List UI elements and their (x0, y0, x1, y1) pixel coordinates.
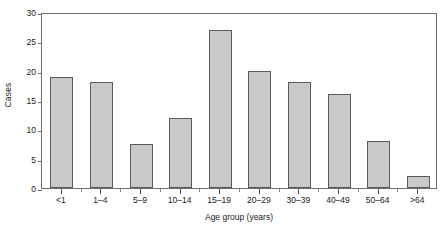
bar-chart-figure: Cases 051015202530 <11–45–910–1415–1920–… (0, 0, 445, 232)
y-tick-label: 25 (27, 38, 36, 47)
x-tick-label: >64 (410, 196, 424, 205)
bar (367, 141, 390, 188)
y-tick-label: 10 (27, 126, 36, 135)
x-tick-minor-mark (160, 189, 161, 192)
x-tick-mark (219, 189, 220, 194)
y-tick-label: 30 (27, 9, 36, 18)
y-axis-title-text: Cases (3, 82, 13, 107)
x-axis-title-text: Age group (years) (205, 212, 273, 222)
x-tick-minor-mark (397, 189, 398, 192)
x-tick-mark (100, 189, 101, 194)
bar (169, 118, 192, 188)
x-tick-label: 10–14 (168, 196, 192, 205)
x-tick-label: 1–4 (93, 196, 107, 205)
bar (50, 77, 73, 188)
x-tick-label: 50–64 (366, 196, 390, 205)
x-tick-label: 15–19 (207, 196, 231, 205)
y-tick-mark (38, 131, 42, 132)
bar (90, 82, 113, 188)
y-tick-label: 5 (31, 155, 36, 164)
y-tick-label: 20 (27, 67, 36, 76)
bars-layer (42, 14, 436, 188)
x-tick-minor-mark (279, 189, 280, 192)
x-tick-label: 40–49 (326, 196, 350, 205)
x-tick-label: 5–9 (133, 196, 147, 205)
y-axis-title: Cases (0, 0, 16, 190)
x-tick-mark (298, 189, 299, 194)
bar (209, 30, 232, 188)
y-tick-mark (38, 73, 42, 74)
x-tick-minor-mark (239, 189, 240, 192)
bar (407, 176, 430, 188)
x-tick-minor-mark (120, 189, 121, 192)
x-tick-mark (378, 189, 379, 194)
x-tick-mark (338, 189, 339, 194)
x-tick-mark (61, 189, 62, 194)
x-tick-mark (180, 189, 181, 194)
y-tick-mark (38, 43, 42, 44)
bar (288, 82, 311, 188)
bar (248, 71, 271, 188)
y-tick-mark (38, 14, 42, 15)
plot-inner (42, 14, 436, 188)
y-tick-mark (38, 102, 42, 103)
x-axis-title: Age group (years) (41, 212, 437, 222)
bar (328, 94, 351, 188)
x-tick-mark (259, 189, 260, 194)
x-tick-label: <1 (56, 196, 66, 205)
y-tick-mark (38, 161, 42, 162)
y-axis-tick-labels: 051015202530 (16, 8, 38, 190)
y-tick-label: 0 (31, 185, 36, 194)
x-tick-label: 30–39 (287, 196, 311, 205)
x-tick-minor-mark (358, 189, 359, 192)
x-tick-mark (140, 189, 141, 194)
x-tick-mark (417, 189, 418, 194)
x-tick-minor-mark (81, 189, 82, 192)
x-tick-minor-mark (318, 189, 319, 192)
y-tick-label: 15 (27, 97, 36, 106)
plot-area (41, 13, 437, 189)
x-tick-label: 20–29 (247, 196, 271, 205)
x-axis-tick-labels: <11–45–910–1415–1920–2930–3940–4950–64>6… (41, 196, 437, 210)
x-tick-minor-mark (199, 189, 200, 192)
bar (130, 144, 153, 188)
